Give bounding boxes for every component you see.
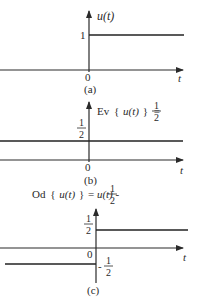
svg-text:2: 2: [110, 195, 115, 206]
y-tick-half-b: 1 2: [77, 117, 86, 140]
x-axis-label-b: t: [180, 164, 184, 176]
even-part-title: Ev { u(t) } =: [97, 105, 160, 118]
title-u-of-t: u(t): [97, 9, 114, 23]
caption-c: (c): [87, 284, 100, 297]
y-tick-1: 1: [80, 29, 86, 41]
svg-text:2: 2: [154, 112, 159, 123]
origin-label-a: 0: [85, 71, 91, 83]
svg-text:1: 1: [86, 213, 91, 224]
origin-label-b: 0: [85, 161, 91, 173]
svg-text:2: 2: [79, 129, 84, 140]
svg-text:2: 2: [106, 267, 111, 278]
x-axis-label-a: t: [178, 72, 182, 84]
y-tick-minus-half-c: - 1 2: [98, 255, 113, 278]
svg-text:1: 1: [154, 100, 159, 111]
origin-label-c: 0: [87, 248, 93, 260]
odd-part-title: Od { u(t) } = u(t) -: [32, 188, 120, 201]
svg-text:1: 1: [106, 255, 111, 266]
svg-text:2: 2: [86, 225, 91, 236]
panel-a: u(t) 1 0 t (a): [0, 9, 184, 96]
x-axis-label-c: t: [183, 251, 187, 263]
panel-b: Ev { u(t) } = 1 2 1 2 0 t (b): [0, 100, 184, 187]
caption-a: (a): [84, 83, 97, 96]
figure-canvas: u(t) 1 0 t (a) Ev { u(t) } = 1 2 1 2 0 t: [0, 0, 197, 308]
svg-text:-: -: [98, 260, 102, 272]
svg-text:1: 1: [110, 183, 115, 194]
svg-text:1: 1: [79, 117, 84, 128]
panel-c: Od { u(t) } = u(t) - 1 2 1 2 - 1 2: [0, 183, 188, 297]
caption-b: (b): [84, 174, 97, 187]
y-tick-plus-half-c: 1 2: [84, 213, 93, 236]
